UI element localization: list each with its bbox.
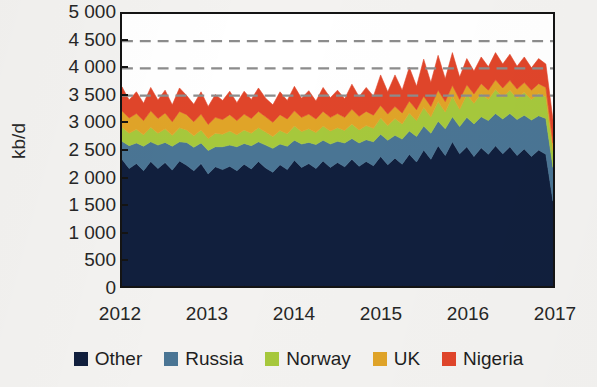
y-tick-label: 1 000 [68,223,116,242]
y-axis-label: kb/d [8,96,30,186]
legend-item-uk[interactable]: UK [373,348,420,370]
y-tick-label: 3 500 [68,85,116,104]
chart-legend: OtherRussiaNorwayUKNigeria [0,348,597,370]
square-swatch [265,352,279,366]
legend-label: Norway [286,348,350,370]
y-tick-mark [120,232,128,234]
legend-item-russia[interactable]: Russia [164,348,243,370]
y-tick-mark [120,94,128,96]
square-swatch [164,352,178,366]
y-tick-label: 0 [105,278,116,297]
y-tick-mark [120,204,128,206]
legend-item-norway[interactable]: Norway [265,348,350,370]
legend-item-nigeria[interactable]: Nigeria [442,348,523,370]
y-tick-label: 4 000 [68,57,116,76]
square-swatch [442,352,456,366]
x-axis-tick-labels: 201220132014201520162017 [0,303,597,333]
x-tick-label: 2016 [447,303,489,325]
y-tick-mark [120,259,128,261]
y-tick-label: 500 [84,250,116,269]
legend-label: Russia [185,348,243,370]
area-series-group [122,53,553,286]
stacked-area-plot [122,14,553,286]
legend-item-other[interactable]: Other [74,348,143,370]
legend-label: UK [394,348,420,370]
y-tick-label: 5 000 [68,2,116,21]
x-tick-label: 2015 [360,303,402,325]
y-tick-mark [120,149,128,151]
plot-area [120,12,555,288]
y-tick-mark [120,121,128,123]
y-tick-mark [120,39,128,41]
legend-label: Other [95,348,143,370]
x-tick-label: 2013 [186,303,228,325]
y-tick-mark [120,66,128,68]
x-tick-label: 2012 [99,303,141,325]
x-tick-label: 2017 [534,303,576,325]
y-tick-label: 2 000 [68,168,116,187]
legend-label: Nigeria [463,348,523,370]
chart-figure: kb/d 5 0004 5004 0003 5003 0002 5002 000… [0,0,597,387]
y-tick-label: 1 500 [68,195,116,214]
x-tick-label: 2014 [273,303,315,325]
y-tick-mark [120,177,128,179]
y-tick-label: 3 000 [68,112,116,131]
square-swatch [373,352,387,366]
square-swatch [74,352,88,366]
y-tick-label: 2 500 [68,140,116,159]
y-tick-label: 4 500 [68,30,116,49]
